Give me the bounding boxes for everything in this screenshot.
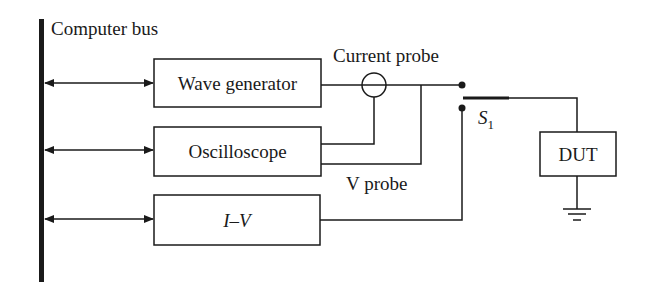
switch-contact-lower [459,105,466,112]
iv-block: I–V [154,195,320,245]
switch-label: S1 [478,107,494,132]
oscilloscope-block: Oscilloscope [154,127,321,176]
wave-generator-label: Wave generator [178,73,298,94]
iv-label: I–V [222,210,253,231]
v-probe-label: V probe [346,173,407,194]
ground-icon [563,176,591,220]
dut-label: DUT [558,144,597,165]
dut-wire [509,98,577,132]
switch-contact-upper [459,82,466,89]
current-probe-label: Current probe [333,45,439,66]
wave-generator-block: Wave generator [154,59,321,107]
current-probe-lead [321,97,374,144]
computer-bus-label: Computer bus [51,18,158,39]
oscilloscope-label: Oscilloscope [188,141,286,162]
measurement-setup-diagram: Computer bus Wave generator Oscilloscope… [0,0,651,294]
computer-bus [39,19,44,282]
dut-block: DUT [540,132,616,176]
switch-s1: S1 [459,82,510,133]
